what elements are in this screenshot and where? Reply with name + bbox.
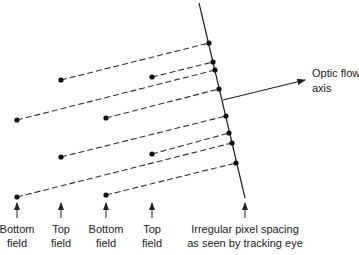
projection-lines xyxy=(17,43,236,197)
field-label-1-line2: field xyxy=(7,237,27,249)
field-label-2-line1: Top xyxy=(52,223,70,235)
field-label-2-line2: field xyxy=(51,237,71,249)
optic-flow-arrow xyxy=(223,80,305,100)
field-label-3-line1: Bottom xyxy=(89,223,124,235)
optic-flow-diagram: Optic flow axis Bottom field Top field B… xyxy=(0,0,359,255)
field-label-3-line2: field xyxy=(96,237,116,249)
field-label-4-line1: Top xyxy=(143,223,161,235)
field-pointer-arrows xyxy=(17,203,245,218)
tracking-axis-line xyxy=(199,3,245,198)
optic-flow-label-line2: axis xyxy=(312,82,332,94)
field-label-1-line1: Bottom xyxy=(0,223,34,235)
source-pixel-dots xyxy=(14,74,154,199)
field-label-4-line2: field xyxy=(142,237,162,249)
optic-flow-label-line1: Optic flow xyxy=(312,67,359,79)
spacing-label-line1: Irregular pixel spacing xyxy=(191,223,299,235)
spacing-label-line2: as seen by tracking eye xyxy=(187,237,303,249)
